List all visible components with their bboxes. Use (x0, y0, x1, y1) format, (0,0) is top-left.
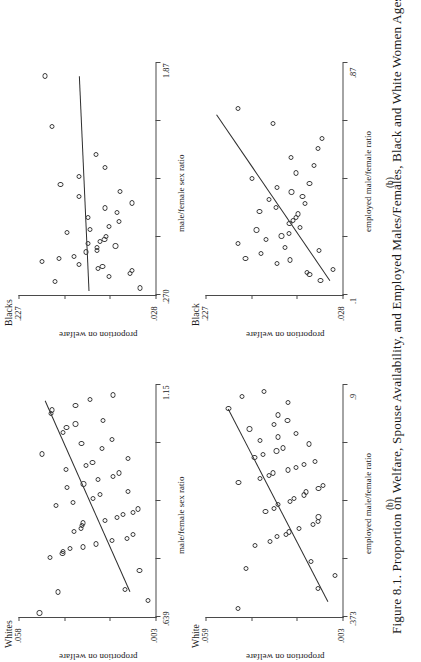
x-axis-tick (155, 236, 160, 237)
x-axis-tick (155, 558, 160, 559)
data-point (49, 124, 54, 129)
regression-line (44, 400, 130, 591)
x-axis-min-label: .373 (348, 611, 357, 626)
data-point (288, 189, 293, 194)
data-point (282, 245, 287, 250)
data-point (49, 407, 54, 412)
y-axis-title: proportion on welfare (245, 652, 323, 662)
x-axis-tick (155, 120, 160, 121)
data-point (251, 455, 256, 460)
data-point (110, 392, 115, 397)
data-point (47, 555, 52, 560)
panel-title-c: Blacks (2, 299, 13, 326)
x-axis-title: male/female sex ratio (175, 155, 185, 232)
data-point (280, 445, 285, 450)
y-axis-tick (296, 295, 297, 300)
data-point (39, 259, 44, 264)
data-point (53, 503, 58, 508)
x-axis-tick (342, 178, 347, 179)
data-point (60, 430, 65, 435)
data-point (271, 422, 276, 427)
data-point (124, 536, 129, 541)
data-point (63, 467, 68, 472)
data-point (303, 489, 308, 494)
data-point (52, 279, 57, 284)
data-point (80, 520, 85, 525)
data-point (93, 152, 98, 157)
plot-area-d (205, 63, 343, 296)
regression-line (79, 76, 90, 291)
data-point (275, 412, 280, 417)
data-point (99, 446, 104, 451)
data-point (60, 549, 65, 554)
scatter-panel-a: Whites.058.003.6391.15male/female sex ra… (18, 326, 225, 618)
data-point (39, 451, 44, 456)
y-axis-tick (64, 617, 65, 622)
data-point (106, 274, 111, 279)
data-point (85, 215, 90, 220)
panel-title-d: Black (189, 303, 200, 326)
data-point (116, 471, 121, 476)
y-axis-tick (205, 295, 206, 300)
data-point (275, 434, 280, 439)
data-point (243, 566, 248, 571)
data-point (316, 248, 321, 253)
data-point (278, 233, 283, 238)
data-point (109, 437, 114, 442)
y-axis-title: proportion on welfare (58, 330, 136, 340)
y-axis-tick (18, 617, 19, 622)
data-point (235, 106, 240, 111)
x-axis-tick (342, 294, 347, 295)
data-point (102, 165, 107, 170)
data-point (260, 452, 265, 457)
scatter-panel-c: Blacks.227.028.2701.87male/female sex ra… (18, 4, 225, 296)
data-point (103, 234, 108, 239)
data-point (295, 211, 300, 216)
data-point (286, 231, 291, 236)
y-axis-min-label: .028 (336, 306, 345, 321)
x-axis-tick (155, 294, 160, 295)
data-point (56, 256, 61, 261)
data-point (284, 418, 289, 423)
x-axis-tick (342, 442, 347, 443)
data-point (120, 512, 125, 517)
data-point (114, 515, 119, 520)
data-point (71, 529, 76, 534)
y-axis-tick (18, 295, 19, 300)
data-point (293, 170, 298, 175)
data-point (83, 250, 88, 255)
data-point (117, 189, 122, 194)
data-point (106, 224, 111, 229)
y-axis-title: proportion on welfare (58, 652, 136, 662)
y-axis-tick (109, 617, 110, 622)
y-axis-min-label: .003 (149, 628, 158, 643)
data-point (87, 397, 92, 402)
data-point (262, 509, 267, 514)
data-point (242, 256, 247, 261)
data-point (261, 389, 266, 394)
data-point (135, 506, 140, 511)
x-axis-tick (155, 62, 160, 63)
y-axis-title: proportion on welfare (245, 330, 323, 340)
data-point (70, 500, 75, 505)
x-axis-tick (342, 236, 347, 237)
data-point (273, 205, 278, 210)
data-point (95, 477, 100, 482)
data-point (80, 545, 85, 550)
data-point (291, 496, 296, 501)
data-point (296, 526, 301, 531)
y-axis-tick (251, 295, 252, 300)
data-point (55, 589, 60, 594)
y-axis-max-label: .058 (13, 628, 22, 643)
scatter-panel-d: Black.227.028.1.87employed male/female r… (205, 4, 412, 296)
data-point (320, 483, 325, 488)
data-point (274, 534, 279, 539)
data-point (312, 459, 317, 464)
data-point (87, 227, 92, 232)
data-point (125, 489, 130, 494)
y-axis-tick (251, 617, 252, 622)
data-point (112, 243, 117, 248)
data-point (270, 121, 275, 126)
x-axis-max-label: 1.15 (161, 385, 170, 400)
data-point (253, 227, 258, 232)
